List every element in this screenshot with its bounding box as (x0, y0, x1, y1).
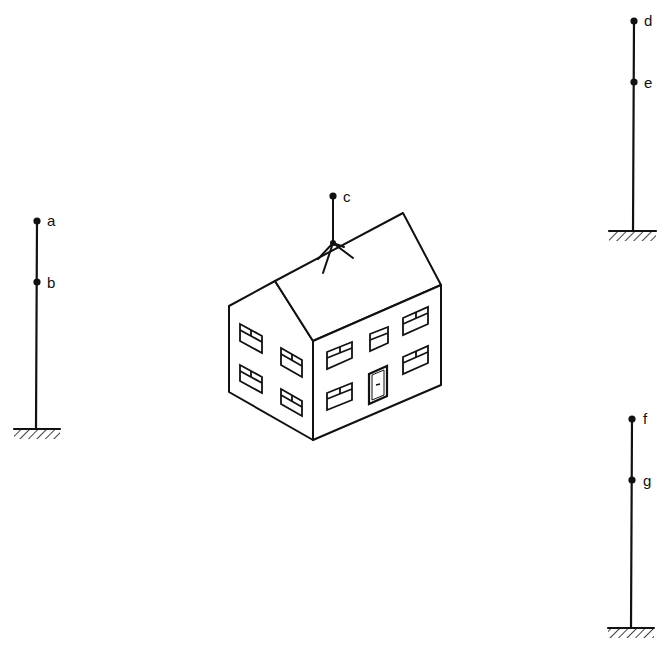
antenna-base-dot (330, 240, 336, 246)
point-f-label: f (643, 410, 648, 427)
ground-hatch (609, 232, 656, 241)
point-g-dot (628, 476, 635, 483)
pole-shaft (631, 419, 632, 628)
left-pole: a b (14, 212, 60, 439)
point-a-dot (33, 217, 40, 224)
front-door (369, 366, 387, 404)
lower-right-pole: f g (608, 410, 654, 638)
point-b-label: b (47, 274, 55, 291)
point-c-label: c (343, 188, 351, 205)
ground-hatch (14, 430, 60, 439)
point-e-dot (630, 78, 637, 85)
pole-shaft (633, 21, 634, 231)
point-e-label: e (644, 74, 652, 91)
ground-hatch (608, 629, 654, 638)
point-g-label: g (643, 472, 651, 489)
point-d-label: d (644, 12, 652, 29)
point-f-dot (628, 415, 635, 422)
point-a-label: a (47, 212, 56, 229)
point-d-dot (630, 17, 637, 24)
point-b-dot (33, 278, 40, 285)
pole-shaft (36, 221, 37, 428)
point-c-dot (329, 192, 336, 199)
upper-right-pole: d e (609, 12, 656, 241)
door-handle (376, 384, 380, 385)
house: c (229, 188, 441, 440)
diagram-canvas: a b d e f g (0, 0, 670, 664)
